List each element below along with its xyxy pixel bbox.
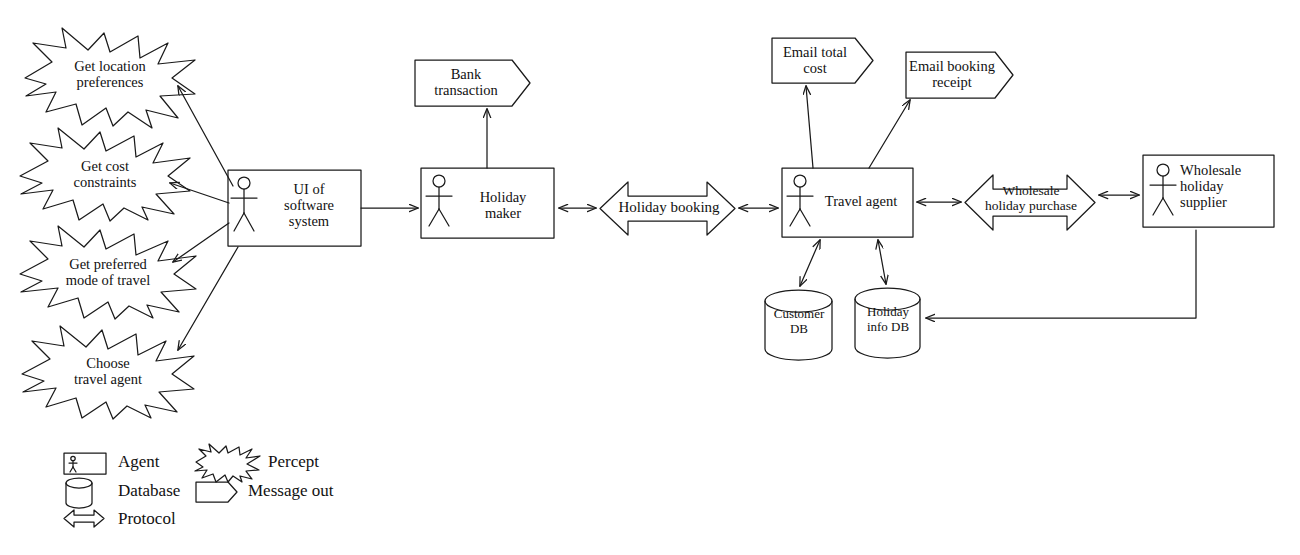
percept-cost-shape bbox=[20, 128, 190, 221]
agent-ui-stickfigure bbox=[231, 177, 257, 231]
agent-holiday-maker-box bbox=[421, 168, 554, 238]
conn-ui-to-percept-mode bbox=[173, 223, 229, 262]
agent-ui-box bbox=[228, 170, 361, 246]
percept-choose-shape bbox=[22, 326, 194, 419]
legend-database-icon bbox=[66, 478, 92, 508]
proto-holiday-booking-shape bbox=[600, 182, 735, 235]
agent-supplier-stickfigure bbox=[1150, 164, 1176, 215]
conn-travel-to-customer-db bbox=[800, 240, 820, 286]
proto-wholesale-shape bbox=[965, 175, 1095, 230]
conn-ui-to-percept-choose bbox=[178, 247, 238, 350]
msg-email-receipt-shape bbox=[906, 52, 1013, 98]
diagram-canvas: Get location preferences Get cost constr… bbox=[0, 0, 1300, 555]
legend-agent-icon bbox=[64, 453, 106, 474]
diagram-graphics bbox=[0, 0, 1300, 555]
conn-travel-to-email-total bbox=[806, 86, 813, 168]
conn-ui-to-percept-cost bbox=[170, 183, 229, 203]
legend-protocol-icon bbox=[64, 510, 104, 527]
msg-bank-shape bbox=[415, 60, 530, 106]
conn-travel-to-email-receipt bbox=[869, 100, 910, 168]
conn-travel-to-holiday-db bbox=[878, 240, 886, 284]
agent-holiday-maker-stickfigure bbox=[426, 175, 452, 226]
percept-location-shape bbox=[25, 28, 195, 128]
legend-message-icon bbox=[196, 482, 237, 502]
conn-ui-to-percept-location bbox=[178, 86, 233, 186]
conn-supplier-to-holiday-db bbox=[926, 230, 1196, 318]
msg-email-total-shape bbox=[772, 38, 873, 83]
agent-travel-stickfigure bbox=[787, 175, 813, 226]
percept-mode-shape bbox=[20, 226, 196, 319]
db-customer-shape bbox=[765, 290, 832, 360]
agent-travel-box bbox=[782, 168, 913, 237]
db-holiday-shape bbox=[855, 288, 920, 358]
legend-percept-icon bbox=[195, 444, 260, 482]
